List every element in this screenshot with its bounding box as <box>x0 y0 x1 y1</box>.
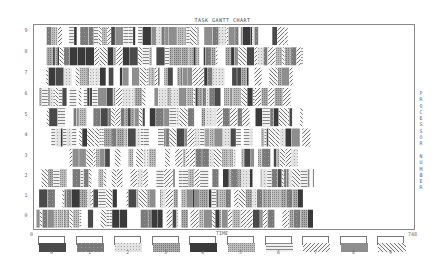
task-block <box>213 68 218 86</box>
task-block <box>100 47 108 65</box>
task-block <box>173 169 175 187</box>
task-block <box>301 210 308 228</box>
task-block <box>170 47 173 65</box>
task-block <box>157 210 162 228</box>
task-block <box>55 88 58 106</box>
task-block <box>235 47 238 65</box>
task-block <box>250 169 253 187</box>
task-block <box>62 189 64 207</box>
task-block <box>260 210 263 228</box>
task-block <box>255 27 259 45</box>
task-block <box>195 129 200 147</box>
task-block <box>184 27 186 45</box>
task-block <box>139 108 142 126</box>
task-block <box>206 88 209 106</box>
legend-label-7: 7 <box>302 249 329 255</box>
task-block <box>262 149 270 167</box>
task-block <box>77 108 79 126</box>
task-block <box>290 108 293 126</box>
task-block <box>277 27 284 45</box>
task-block <box>115 27 123 45</box>
task-block <box>101 210 107 228</box>
task-block <box>102 129 104 147</box>
task-block <box>302 129 310 147</box>
task-block <box>164 169 171 187</box>
task-block <box>74 27 77 45</box>
task-block <box>202 149 209 167</box>
task-block <box>87 88 89 106</box>
task-block <box>242 68 247 86</box>
task-block <box>204 47 206 65</box>
legend-label-4: 4 <box>189 249 216 255</box>
task-block <box>251 149 254 167</box>
task-block <box>99 27 102 45</box>
task-block <box>212 210 215 228</box>
task-block <box>112 210 119 228</box>
task-block <box>282 169 284 187</box>
task-block <box>250 129 253 147</box>
task-block <box>233 210 241 228</box>
task-block <box>69 27 74 45</box>
task-block <box>115 149 121 167</box>
task-block <box>194 47 196 65</box>
task-block <box>154 88 158 106</box>
task-block <box>214 129 222 147</box>
y-tick-6: 6 <box>22 90 30 96</box>
task-block <box>182 169 188 187</box>
task-block <box>158 129 164 147</box>
task-block <box>107 88 113 106</box>
task-block <box>63 129 66 147</box>
task-block <box>227 27 229 45</box>
task-block <box>131 169 138 187</box>
task-block <box>196 88 198 106</box>
task-block <box>125 108 127 126</box>
task-block <box>138 169 143 187</box>
task-block <box>128 129 136 147</box>
task-block <box>112 169 117 187</box>
task-block <box>255 68 262 86</box>
task-block <box>206 47 211 65</box>
task-block <box>215 210 219 228</box>
y-tick-7: 7 <box>22 69 30 75</box>
task-block <box>216 189 218 207</box>
task-block <box>187 68 192 86</box>
task-block <box>42 88 48 106</box>
task-block <box>180 68 182 86</box>
task-block <box>183 68 187 86</box>
task-block <box>308 210 313 228</box>
task-block <box>186 149 189 167</box>
task-block <box>144 129 149 147</box>
task-block <box>67 129 72 147</box>
task-block <box>127 189 129 207</box>
task-block <box>40 210 42 228</box>
task-block <box>48 169 53 187</box>
task-block <box>59 88 62 106</box>
task-block <box>292 169 300 187</box>
task-block <box>229 169 231 187</box>
task-block <box>155 68 158 86</box>
x-tick-start: 0 <box>30 231 33 237</box>
task-block <box>269 129 275 147</box>
task-block <box>166 189 174 207</box>
task-block <box>179 169 182 187</box>
task-block <box>241 27 243 45</box>
task-block <box>144 149 147 167</box>
task-block <box>219 189 225 207</box>
task-block <box>53 47 55 65</box>
task-block <box>54 210 57 228</box>
task-block <box>183 149 186 167</box>
y-tick-2: 2 <box>22 172 30 178</box>
task-block <box>174 189 178 207</box>
task-block <box>246 210 252 228</box>
task-block <box>286 129 292 147</box>
task-block <box>231 47 234 65</box>
task-block <box>200 169 208 187</box>
task-block <box>274 149 277 167</box>
task-block <box>198 88 202 106</box>
task-block <box>47 47 53 65</box>
task-block <box>100 149 105 167</box>
task-block <box>55 27 57 45</box>
task-block <box>194 88 196 106</box>
task-block <box>177 27 184 45</box>
task-block <box>111 129 116 147</box>
